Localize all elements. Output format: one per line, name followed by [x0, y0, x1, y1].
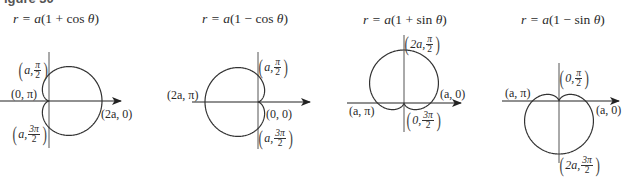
fraction-numerator: π [575, 69, 582, 79]
fraction: π2 [34, 61, 41, 80]
panel-2-point-label-0-0: (0, 0) [266, 108, 292, 120]
panel-1-point-label-a-pi-over-2: (a, π2) [17, 60, 49, 80]
title-mid: (1 + cos [41, 11, 88, 26]
panel-2-title: r = a(1 − cos θ) [202, 11, 288, 27]
title-theta: θ [277, 11, 284, 26]
fraction-numerator: 3π [274, 129, 286, 139]
panel-1-point-label-a-3pi-over-2: (a, 3π2) [11, 124, 48, 144]
fraction: 3π2 [422, 111, 434, 130]
title-theta: θ [88, 11, 95, 26]
fraction-numerator: π [34, 61, 41, 71]
label-coord: 0, [412, 114, 421, 126]
panel-3-title: r = a(1 + sin θ) [363, 12, 447, 28]
title-mid: (1 + sin [391, 12, 436, 27]
label-coord: 2a, [565, 159, 580, 171]
title-close: ) [95, 11, 100, 26]
label-coord: 2a, [410, 38, 425, 50]
fraction: 3π2 [274, 129, 286, 148]
title-r: r = [363, 12, 384, 27]
fraction-numerator: 3π [422, 111, 434, 121]
panel-3-point-label-0-3pi-over-2: (0, 3π2) [405, 110, 442, 130]
label-coord: a, [18, 128, 27, 140]
title-close: ) [442, 12, 447, 27]
fraction: π2 [274, 58, 281, 77]
fraction: π2 [575, 69, 582, 88]
panel-3-point-label-a-pi: (a, π) [349, 105, 374, 117]
panel-4-point-label-2a-3pi-over-2: (2a, 3π2) [558, 155, 601, 175]
title-r: r = [521, 12, 542, 27]
fraction-numerator: π [426, 35, 433, 45]
panel-3-point-label-2a-pi-over-2: (2a, π2) [403, 34, 441, 54]
cardioid-figure: Figure 30 [0, 0, 623, 179]
title-mid: (1 − sin [549, 12, 594, 27]
title-close: ) [284, 11, 289, 26]
title-a: a [542, 12, 549, 27]
fraction-denominator: 2 [275, 68, 280, 77]
fraction-denominator: 2 [426, 121, 431, 130]
label-coord: 0, [565, 72, 574, 84]
panel-2-point-label-2a-pi: (2a, π) [167, 89, 198, 101]
label-coord: a, [264, 132, 273, 144]
title-r: r = [13, 11, 34, 26]
panel-2-point-label-a-3pi-over-2: (a, 3π2) [257, 128, 294, 148]
panel-2-point-label-a-pi-over-2: (a, π2) [257, 57, 289, 77]
fraction-numerator: 3π [581, 156, 593, 166]
fraction-numerator: 3π [28, 125, 40, 135]
fraction-denominator: 2 [32, 135, 37, 144]
panel-1-point-label-0-pi: (0, π) [11, 88, 37, 100]
title-a: a [223, 11, 230, 26]
title-r: r = [202, 11, 223, 26]
title-a: a [34, 11, 41, 26]
label-coord: a, [264, 61, 273, 73]
fraction: 3π2 [581, 156, 593, 175]
fraction-denominator: 2 [576, 79, 581, 88]
title-mid: (1 − cos [230, 11, 277, 26]
label-coord: a, [24, 64, 33, 76]
title-close: ) [600, 12, 605, 27]
panel-3-point-label-a-0: (a, 0) [440, 88, 465, 100]
fraction: π2 [426, 35, 433, 54]
fraction: 3π2 [28, 125, 40, 144]
fraction-numerator: π [274, 58, 281, 68]
title-a: a [384, 12, 391, 27]
panel-1-title: r = a(1 + cos θ) [13, 11, 99, 27]
panel-4-point-label-a-0: (a, 0) [596, 104, 621, 116]
panel-4-title: r = a(1 − sin θ) [521, 12, 605, 28]
fraction-denominator: 2 [427, 45, 432, 54]
fraction-denominator: 2 [585, 166, 590, 175]
panel-4-point-label-0-pi-over-2: (0, π2) [558, 68, 590, 88]
panel-1-point-label-2a-0: (2a, 0) [101, 108, 132, 120]
fraction-denominator: 2 [278, 139, 283, 148]
fraction-denominator: 2 [35, 71, 40, 80]
panel-4-point-label-a-pi: (a, π) [505, 87, 530, 99]
